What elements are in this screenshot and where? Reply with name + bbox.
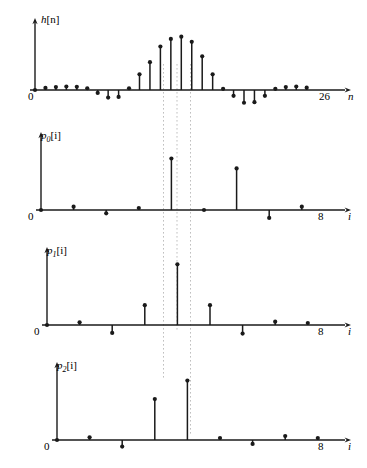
panel-0-y-axis-label: h[n] [41, 14, 59, 25]
panel-0-datapoint-20 [242, 101, 246, 105]
panel-0-datapoint-21 [252, 100, 256, 104]
panel-3-xmax-label: 8 [318, 441, 324, 452]
panel-0-datapoint-9 [127, 86, 131, 90]
stem-plot-canvas [0, 0, 367, 468]
panel-0-datapoint-1 [43, 86, 47, 90]
panel-3-datapoint-0 [55, 438, 59, 442]
panel-2-datapoint-5 [208, 303, 212, 307]
panel-0-datapoint-12 [158, 44, 162, 48]
panel-0-datapoint-5 [85, 86, 89, 90]
panel-2-origin-label: 0 [34, 326, 40, 337]
panel-1-x-axis-label: i [348, 211, 351, 222]
panel-3-datapoint-6 [251, 442, 255, 446]
panel-0-x-axis-label: n [348, 91, 354, 102]
panel-0-datapoint-4 [75, 85, 79, 89]
panel-1-y-axis-label-arg: [i] [51, 129, 61, 141]
panel-0-datapoint-24 [284, 85, 288, 89]
panel-2-y-axis-label: p1[i] [47, 245, 67, 259]
panel-2-datapoint-8 [306, 321, 310, 325]
panel-1-datapoint-5 [202, 208, 206, 212]
panel-2-datapoint-3 [143, 303, 147, 307]
panel-3-origin-label: 0 [44, 441, 50, 452]
panel-2-xmax-label: 8 [318, 326, 324, 337]
panel-0-xmax-label: 26 [319, 91, 330, 102]
stem-panel-3 [52, 362, 351, 449]
panel-0-datapoint-7 [106, 95, 110, 99]
panel-0-datapoint-19 [231, 94, 235, 98]
panel-0-datapoint-15 [190, 40, 194, 44]
panel-0-datapoint-2 [54, 85, 58, 89]
panel-1-datapoint-3 [137, 206, 141, 210]
panel-2-datapoint-6 [241, 331, 245, 335]
panel-0-datapoint-16 [200, 54, 204, 58]
panel-3-datapoint-1 [88, 435, 92, 439]
panel-2-datapoint-4 [175, 262, 179, 266]
panel-1-datapoint-4 [169, 156, 173, 160]
stem-panel-2 [42, 247, 351, 336]
panel-0-datapoint-22 [263, 94, 267, 98]
panel-0-datapoint-17 [211, 72, 215, 76]
panel-3-datapoint-5 [218, 436, 222, 440]
panel-1-datapoint-1 [72, 205, 76, 209]
panel-2-y-axis-label-arg: [i] [57, 244, 67, 256]
panel-0-datapoint-23 [273, 87, 277, 91]
panel-3-y-axis-label-arg: [i] [67, 359, 77, 371]
panel-0-datapoint-18 [221, 87, 225, 91]
panel-0-datapoint-10 [137, 72, 141, 76]
panel-2-datapoint-0 [45, 323, 49, 327]
panel-0-datapoint-8 [117, 95, 121, 99]
panel-1-origin-label: 0 [28, 211, 34, 222]
panel-0-datapoint-3 [64, 84, 68, 88]
panel-3-y-axis-label: p2[i] [57, 360, 77, 374]
panel-1-y-axis-label: p0[i] [41, 130, 61, 144]
stem-plot-figure: h[n] 0 26 n p0[i] 0 8 i p1[i] 0 8 i p2[i… [0, 0, 367, 468]
panel-1-datapoint-6 [235, 166, 239, 170]
panel-1-datapoint-0 [39, 208, 43, 212]
panel-0-datapoint-26 [305, 86, 309, 90]
panel-2-x-axis-label: i [348, 326, 351, 337]
panel-0-origin-label: 0 [28, 91, 34, 102]
panel-3-datapoint-4 [185, 379, 189, 383]
panel-3-x-axis-label: i [348, 441, 351, 452]
panel-3-datapoint-2 [120, 445, 124, 449]
panel-1-xmax-label: 8 [318, 211, 324, 222]
panel-2-datapoint-1 [78, 320, 82, 324]
panel-2-datapoint-7 [273, 320, 277, 324]
stem-panel-0 [30, 18, 351, 105]
panel-3-datapoint-3 [153, 397, 157, 401]
panel-3-datapoint-7 [283, 434, 287, 438]
panel-1-datapoint-8 [300, 205, 304, 209]
panel-1-datapoint-2 [104, 211, 108, 215]
panel-0-y-axis-label-arg: [n] [47, 13, 60, 25]
panel-0-datapoint-6 [96, 91, 100, 95]
panel-1-datapoint-7 [267, 216, 271, 220]
panel-2-datapoint-2 [110, 331, 114, 335]
panel-0-datapoint-14 [179, 35, 183, 39]
panel-0-datapoint-25 [294, 84, 298, 88]
stem-panel-1 [36, 132, 351, 220]
panel-0-datapoint-11 [148, 60, 152, 64]
panel-0-datapoint-13 [169, 37, 173, 41]
